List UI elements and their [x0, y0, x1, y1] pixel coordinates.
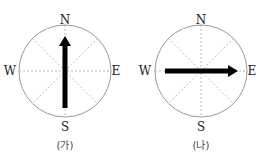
label-west: W — [138, 65, 152, 77]
arrow-east-icon — [165, 65, 238, 77]
label-east: E — [245, 65, 259, 77]
label-north: N — [58, 14, 72, 26]
label-west: W — [3, 65, 17, 77]
caption-ga: (가) — [45, 137, 85, 152]
label-north: N — [194, 14, 208, 26]
arrow-north-icon — [59, 36, 71, 108]
compass-panel-ga: N S W E (가) — [0, 0, 132, 155]
label-east: E — [109, 65, 123, 77]
label-south: S — [58, 121, 72, 133]
label-south: S — [194, 121, 208, 133]
caption-na: (나) — [181, 137, 221, 152]
compass-panel-na: N S W E (나) — [132, 0, 264, 155]
